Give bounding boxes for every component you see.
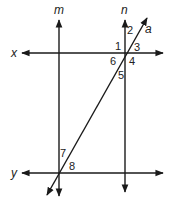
- angle-1: 1: [115, 40, 121, 52]
- line-a: [47, 18, 147, 195]
- angle-3: 3: [134, 41, 140, 53]
- label-n: n: [121, 3, 128, 17]
- label-a: a: [145, 22, 152, 36]
- angle-4: 4: [129, 55, 135, 67]
- label-m: m: [54, 3, 64, 17]
- diagram: m n a x y 2 1 3 6 4 5 7 8: [0, 0, 173, 202]
- angle-8: 8: [69, 160, 75, 172]
- angle-7: 7: [60, 147, 66, 159]
- angle-5: 5: [118, 69, 124, 81]
- label-x: x: [10, 46, 18, 60]
- angle-6: 6: [110, 55, 116, 67]
- geometry-figure: m n a x y 2 1 3 6 4 5 7 8: [0, 0, 173, 202]
- angle-2: 2: [127, 24, 133, 36]
- label-y: y: [10, 166, 18, 180]
